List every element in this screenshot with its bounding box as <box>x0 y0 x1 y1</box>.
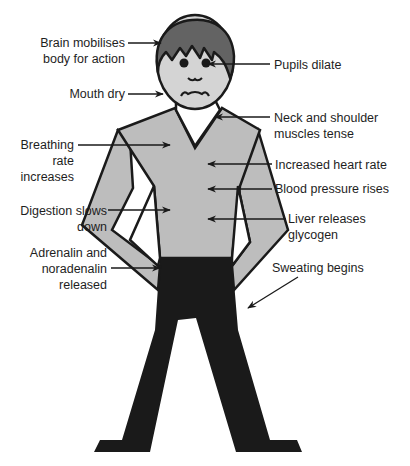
label-line: Breathing <box>20 137 74 153</box>
label-line: noradenalin <box>30 261 107 277</box>
label-line: Neck and shoulder <box>274 110 378 126</box>
label-line: Brain mobilises <box>40 35 125 51</box>
label-line: Blood pressure rises <box>275 181 389 197</box>
label-line: body for action <box>40 51 125 67</box>
label-line: Adrenalin and <box>30 245 107 261</box>
label-line: down <box>20 219 107 235</box>
label-pupils: Pupils dilate <box>274 57 341 73</box>
label-sweating: Sweating begins <box>272 260 364 276</box>
label-line: muscles tense <box>274 126 378 142</box>
label-line: released <box>30 277 107 293</box>
label-line: Increased heart rate <box>275 157 387 173</box>
label-mouth: Mouth dry <box>69 86 125 102</box>
label-neck: Neck and shoulder muscles tense <box>274 110 378 142</box>
label-line: glycogen <box>288 227 366 243</box>
label-line: Liver releases <box>288 211 366 227</box>
label-blood: Blood pressure rises <box>275 181 389 197</box>
label-heart: Increased heart rate <box>275 157 387 173</box>
label-line: rate <box>20 153 74 169</box>
label-line: Mouth dry <box>69 86 125 102</box>
label-digestion: Digestion slows down <box>20 203 107 235</box>
trousers <box>94 258 302 452</box>
label-line: Sweating begins <box>272 260 364 276</box>
label-adrenalin: Adrenalin and noradenalin released <box>30 245 107 293</box>
arrow-sweating <box>248 277 298 308</box>
label-liver: Liver releases glycogen <box>288 211 366 243</box>
left-eye <box>180 59 189 68</box>
label-breathing: Breathing rate increases <box>20 137 74 185</box>
label-line: increases <box>20 169 74 185</box>
label-brain: Brain mobilises body for action <box>40 35 125 67</box>
label-line: Digestion slows <box>20 203 107 219</box>
label-line: Pupils dilate <box>274 57 341 73</box>
right-eye <box>202 59 211 68</box>
